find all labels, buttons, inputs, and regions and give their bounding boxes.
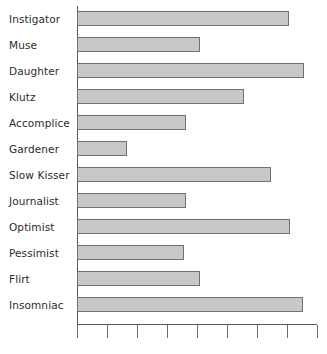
category-label: Daughter: [9, 58, 73, 84]
category-label: Optimist: [9, 214, 73, 240]
bar: [77, 37, 200, 52]
x-axis-tick: [197, 325, 198, 338]
category-label: Pessimist: [9, 240, 73, 266]
bar: [77, 271, 200, 286]
bar-row: Muse: [0, 32, 327, 58]
bar: [77, 193, 186, 208]
category-label: Insomniac: [9, 292, 73, 318]
category-label: Muse: [9, 32, 73, 58]
bar: [77, 245, 184, 260]
bar: [77, 11, 289, 26]
bar: [77, 297, 303, 312]
category-label: Slow Kisser: [9, 162, 73, 188]
category-label: Journalist: [9, 188, 73, 214]
x-axis-tick: [167, 325, 168, 338]
x-axis-tick: [107, 325, 108, 338]
bar: [77, 219, 290, 234]
bar-row: Daughter: [0, 58, 327, 84]
bar-chart: InstigatorMuseDaughterKlutzAccompliceGar…: [0, 0, 327, 354]
x-axis-tick: [287, 325, 288, 338]
bar: [77, 89, 244, 104]
bar: [77, 63, 304, 78]
category-label: Accomplice: [9, 110, 73, 136]
bar: [77, 115, 186, 130]
x-axis-tick: [227, 325, 228, 338]
x-axis-tick: [317, 325, 318, 338]
plot-area: InstigatorMuseDaughterKlutzAccompliceGar…: [0, 0, 327, 354]
bar-row: Accomplice: [0, 110, 327, 136]
category-label: Gardener: [9, 136, 73, 162]
bar-row: Insomniac: [0, 292, 327, 318]
bar-row: Flirt: [0, 266, 327, 292]
category-label: Klutz: [9, 84, 73, 110]
x-axis-tick: [77, 325, 78, 338]
x-axis-tick: [257, 325, 258, 338]
bar-row: Slow Kisser: [0, 162, 327, 188]
bar-row: Journalist: [0, 188, 327, 214]
bar-row: Klutz: [0, 84, 327, 110]
bar-row: Gardener: [0, 136, 327, 162]
bar-row: Instigator: [0, 6, 327, 32]
category-label: Instigator: [9, 6, 73, 32]
bar: [77, 141, 127, 156]
bar-row: Optimist: [0, 214, 327, 240]
category-label: Flirt: [9, 266, 73, 292]
x-axis-tick: [137, 325, 138, 338]
bar-row: Pessimist: [0, 240, 327, 266]
bar: [77, 167, 271, 182]
